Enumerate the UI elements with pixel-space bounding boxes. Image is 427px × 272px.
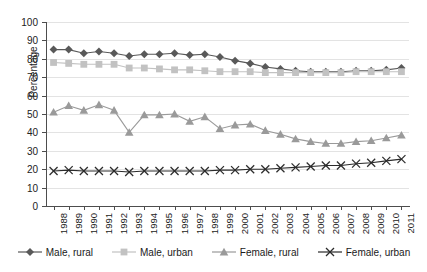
data-point-marker [64,102,73,110]
chart-legend: Male, ruralMale, urbanFemale, ruralFemal… [0,246,427,258]
x-tick-label: 1996 [179,213,190,234]
series-layer [46,22,409,206]
y-tick-label: 50 [0,109,38,120]
data-point-marker [261,126,270,134]
line-chart: Percentage 0102030405060708090100 198819… [0,0,427,272]
x-tick-label: 1988 [58,213,69,234]
x-tick-label: 1989 [73,213,84,234]
x-tick-mark [265,206,266,210]
y-tick-label: 40 [0,127,38,138]
data-point-marker [201,113,210,121]
x-tick-label: 1998 [209,213,220,234]
data-point-marker [186,66,193,73]
data-point-marker [155,50,163,58]
x-tick-label: 2003 [284,213,295,234]
legend-label: Male, rural [46,247,93,258]
y-tick-label: 90 [0,35,38,46]
data-point-marker [121,249,128,256]
data-point-marker [217,68,224,75]
x-tick-mark [235,206,236,210]
series-line [54,105,402,144]
x-tick-label: 2010 [390,213,401,234]
x-tick-mark [250,206,251,210]
series-2 [50,59,405,76]
data-point-marker [110,106,119,114]
legend-marker-diamond-icon [17,246,43,258]
data-point-marker [322,69,329,76]
x-tick-mark [54,206,55,210]
data-point-marker [353,68,360,75]
data-point-marker [125,52,133,60]
data-point-marker [80,61,87,68]
legend-label: Female, urban [346,247,410,258]
legend-item-square[interactable]: Male, urban [111,246,193,258]
data-point-marker [383,68,390,75]
series-3 [49,101,405,147]
x-tick-label: 1994 [148,213,159,234]
data-point-marker [338,69,345,76]
data-point-marker [201,50,209,58]
data-point-marker [397,131,406,139]
x-tick-label: 2000 [239,213,250,234]
data-point-marker [80,49,88,57]
data-point-marker [186,51,194,59]
y-tick-label: 10 [0,182,38,193]
data-point-marker [50,46,58,54]
legend-item-cross[interactable]: Female, urban [317,246,410,258]
data-point-marker [126,65,133,72]
legend-marker-square-icon [111,246,137,258]
x-tick-mark [84,206,85,210]
x-tick-label: 2007 [345,213,356,234]
y-tick-label: 80 [0,53,38,64]
x-tick-mark [401,206,402,210]
legend-label: Male, urban [140,247,193,258]
y-tick-label: 60 [0,90,38,101]
x-tick-mark [341,206,342,210]
data-point-marker [65,46,73,54]
x-tick-mark [311,206,312,210]
x-tick-label: 1995 [163,213,174,234]
data-point-marker [156,66,163,73]
y-tick-label: 100 [0,17,38,28]
data-point-marker [216,53,224,61]
data-point-marker [141,65,148,72]
y-tick-label: 20 [0,164,38,175]
x-tick-mark [144,206,145,210]
data-point-marker [95,47,103,55]
y-tick-label: 0 [0,201,38,212]
legend-item-triangle[interactable]: Female, rural [211,246,299,258]
x-tick-label: 1997 [194,213,205,234]
data-point-marker [49,108,58,116]
x-tick-mark [175,206,176,210]
data-point-marker [246,120,255,128]
x-tick-mark [280,206,281,210]
data-point-marker [398,68,405,75]
data-point-marker [201,67,208,74]
data-point-marker [140,50,148,58]
legend-marker-cross-icon [317,246,343,258]
data-point-marker [65,60,72,67]
x-tick-mark [114,206,115,210]
x-tick-label: 2005 [315,213,326,234]
data-point-marker [171,66,178,73]
x-tick-mark [205,206,206,210]
data-point-marker [50,59,57,66]
data-point-marker [262,69,269,76]
legend-label: Female, rural [240,247,299,258]
x-tick-label: 1999 [224,213,235,234]
x-tick-label: 2004 [300,213,311,234]
x-tick-label: 1991 [103,213,114,234]
y-tick-label: 70 [0,72,38,83]
data-point-marker [277,69,284,76]
data-point-marker [307,69,314,76]
y-tick-label: 30 [0,145,38,156]
data-point-marker [170,110,179,118]
x-tick-mark [129,206,130,210]
legend-item-diamond[interactable]: Male, rural [17,246,93,258]
legend-marker-triangle-icon [211,246,237,258]
x-tick-mark [371,206,372,210]
data-point-marker [111,61,118,68]
x-tick-mark [386,206,387,210]
series-4 [50,155,406,176]
data-point-marker [246,59,254,67]
